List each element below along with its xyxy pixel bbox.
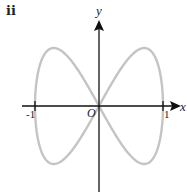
plot-canvas: y x O -1 1: [0, 0, 187, 192]
y-axis-label: y: [94, 3, 102, 18]
origin-label: O: [87, 106, 96, 120]
tick-label-neg1: -1: [26, 108, 35, 120]
tick-label-1: 1: [164, 108, 170, 120]
figure-diagram: ii y x O -1 1: [0, 0, 187, 192]
x-axis-label: x: [179, 99, 186, 114]
